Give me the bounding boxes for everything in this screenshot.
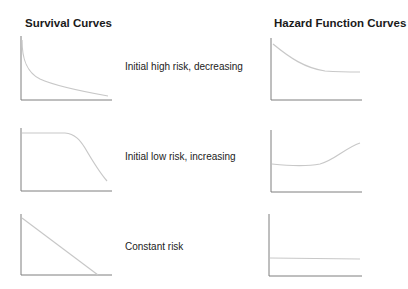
survival-plot-low-increasing bbox=[21, 128, 112, 191]
curve-plots bbox=[0, 0, 408, 289]
hazard-plot-high-decreasing bbox=[271, 38, 362, 100]
hazard-plot-low-increasing bbox=[271, 130, 362, 192]
survival-plot-high-decreasing bbox=[21, 36, 112, 100]
survival-plot-constant bbox=[21, 214, 112, 275]
hazard-plot-constant bbox=[269, 214, 362, 276]
